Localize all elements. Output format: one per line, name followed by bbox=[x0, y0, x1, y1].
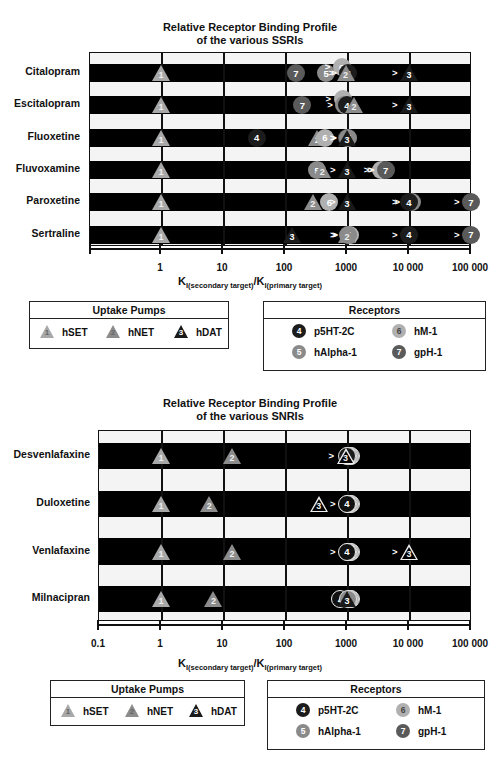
tick-label: 10 000 bbox=[378, 638, 438, 649]
greater-than-indicator: > bbox=[330, 196, 336, 207]
triangle-1-icon: 1 bbox=[40, 325, 54, 339]
greater-than-indicator: > bbox=[454, 196, 460, 207]
marker-label: 3 bbox=[338, 199, 356, 209]
axis-tick bbox=[159, 620, 161, 630]
marker-label: 1 bbox=[152, 199, 170, 209]
legend-label: hDAT bbox=[211, 706, 237, 717]
marker-gph-1-icon: 7 bbox=[462, 193, 480, 211]
legend-item-hnet: 2hNET bbox=[125, 704, 173, 718]
axis-line bbox=[90, 248, 471, 250]
legend-uptake-title: Uptake Pumps bbox=[51, 681, 244, 698]
gridline bbox=[285, 431, 287, 620]
triangle-1-icon: 1 bbox=[61, 704, 75, 718]
marker-hdat-icon: 3 bbox=[347, 599, 356, 607]
greater-than-indicator: > bbox=[392, 99, 398, 110]
marker-hnet-icon: 2 bbox=[209, 504, 218, 512]
tick-label: 10 000 bbox=[378, 262, 438, 273]
tick-label: 100 bbox=[254, 638, 314, 649]
marker-label: 1 bbox=[152, 596, 170, 606]
row-label-citalopram: Citalopram bbox=[0, 65, 80, 77]
tick-label: 0.1 bbox=[68, 638, 128, 649]
marker-hset-icon: 1 bbox=[161, 552, 170, 560]
legend-label: hM-1 bbox=[414, 326, 437, 337]
row-band bbox=[90, 161, 470, 179]
marker-gph-1-icon: 7 bbox=[377, 161, 395, 179]
axis-tick bbox=[283, 620, 285, 630]
row-label-paroxetine: Paroxetine bbox=[0, 194, 80, 206]
triangle-2-icon: 2 bbox=[106, 325, 120, 339]
marker-label: 2 bbox=[200, 501, 218, 511]
greater-than-indicator: > bbox=[392, 67, 398, 78]
marker-hnet-icon: 2 bbox=[232, 552, 241, 560]
circle-shape: 6 bbox=[396, 703, 410, 717]
snri-title-line-1: Relative Receptor Binding Profile bbox=[0, 397, 500, 410]
axis-tick bbox=[345, 244, 347, 254]
greater-than-indicator: > bbox=[330, 229, 336, 240]
tick-label: 100 000 bbox=[440, 262, 500, 273]
marker-hset-icon: 1 bbox=[161, 170, 170, 178]
legend-item-halpha-1: 5hAlpha-1 bbox=[296, 724, 361, 738]
triangle-number: 3 bbox=[174, 328, 188, 337]
marker-label: 1 bbox=[152, 232, 170, 242]
circle-6-icon: 6 bbox=[396, 703, 410, 717]
axis-tick bbox=[469, 244, 471, 254]
row-label-fluvoxamine: Fluvoxamine bbox=[0, 162, 80, 174]
marker-label: 3 bbox=[283, 232, 301, 242]
greater-than-indicator: > bbox=[329, 67, 335, 78]
marker-label: 1 bbox=[152, 70, 170, 80]
marker-label: 1 bbox=[152, 549, 170, 559]
greater-than-indicator: > bbox=[454, 229, 460, 240]
xlabel-k: K bbox=[178, 275, 186, 287]
axis-tick bbox=[89, 244, 91, 254]
row-label-escitalopram: Escitalopram bbox=[0, 97, 80, 109]
xlabel-sub2: I(primary target) bbox=[264, 281, 322, 290]
circle-shape: 6 bbox=[392, 324, 406, 338]
marker-label: 3 bbox=[310, 501, 328, 511]
tick-label: 10 bbox=[192, 638, 252, 649]
legend-label: hAlpha-1 bbox=[314, 347, 357, 358]
row-label-venlafaxine: Venlafaxine bbox=[0, 544, 90, 556]
circle-5-icon: 5 bbox=[296, 724, 310, 738]
marker-hdat-icon: 3 bbox=[409, 552, 418, 560]
legend-label: hSET bbox=[83, 706, 109, 717]
marker-label: 6 bbox=[322, 132, 327, 143]
marker-hset-icon: 1 bbox=[161, 202, 170, 210]
row-label-milnacipran: Milnacipran bbox=[0, 591, 90, 603]
legend-item-hdat: 3hDAT bbox=[174, 325, 222, 339]
marker-hset-icon: 1 bbox=[161, 599, 170, 607]
legend-receptors-title: Receptors bbox=[264, 302, 485, 319]
ssri-legend-uptake-pumps: Uptake Pumps 1hSET2hNET3hDAT bbox=[29, 301, 229, 349]
xlabel-sub2: I(primary target) bbox=[264, 663, 322, 672]
marker-label: 3 bbox=[400, 102, 418, 112]
marker-hset-icon: 1 bbox=[161, 105, 170, 113]
marker-label: 7 bbox=[468, 197, 473, 208]
legend-item-halpha-1: 5hAlpha-1 bbox=[292, 345, 357, 359]
legend-item-hm-1: 6hM-1 bbox=[396, 703, 441, 717]
legend-item-hset: 1hSET bbox=[61, 704, 109, 718]
snri-legend-uptake-pumps: Uptake Pumps 1hSET2hNET3hDAT bbox=[50, 680, 245, 726]
marker-hset-icon: 1 bbox=[161, 235, 170, 243]
triangle-number: 3 bbox=[189, 707, 203, 716]
tick-label: 1 bbox=[130, 638, 190, 649]
gridline bbox=[223, 53, 225, 245]
greater-than-indicator: > bbox=[330, 164, 336, 175]
marker-hset-icon: 1 bbox=[161, 138, 170, 146]
legend-receptors-title: Receptors bbox=[268, 681, 484, 698]
marker-hnet-icon: 2 bbox=[347, 235, 356, 243]
axis-tick bbox=[469, 620, 471, 630]
triangle-number: 1 bbox=[61, 707, 75, 716]
greater-than-indicator: > bbox=[392, 229, 398, 240]
marker-p5ht-2c-icon: 4 bbox=[248, 129, 266, 147]
marker-label: 3 bbox=[338, 596, 356, 606]
circle-shape: 5 bbox=[296, 724, 310, 738]
legend-item-gph-1: 7gpH-1 bbox=[396, 724, 446, 738]
axis-tick bbox=[221, 620, 223, 630]
circle-shape: 5 bbox=[292, 345, 306, 359]
legend-item-hdat: 3hDAT bbox=[189, 704, 237, 718]
marker-label: 3 bbox=[338, 167, 356, 177]
marker-label: 1 bbox=[152, 501, 170, 511]
row-label-sertraline: Sertraline bbox=[0, 227, 80, 239]
marker-label: 2 bbox=[304, 199, 322, 209]
marker-gph-1-icon: 7 bbox=[462, 226, 480, 244]
marker-hdat-icon: 3 bbox=[319, 504, 328, 512]
